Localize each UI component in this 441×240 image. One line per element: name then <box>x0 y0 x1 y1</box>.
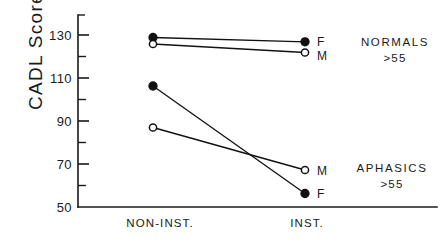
series-line-normals-male <box>153 44 305 53</box>
point-label-normals-female: F <box>317 35 325 49</box>
annotation-aphasics: APHASICS >55 <box>357 162 428 190</box>
annotation-aphasics-line1: APHASICS <box>357 162 428 174</box>
series-line-aphasics-male <box>153 128 305 171</box>
annotation-normals: NORMALS >55 <box>361 36 429 64</box>
y-tick-label-110: 110 <box>50 71 72 86</box>
series-line-normals-female <box>153 38 305 42</box>
annotation-aphasics-line2: >55 <box>380 178 403 190</box>
datapoint-aphasics-female-non-inst <box>149 82 157 90</box>
y-tick-label-130: 130 <box>49 28 72 43</box>
datapoint-aphasics-female-inst <box>301 189 309 197</box>
datapoint-normals-male-non-inst <box>149 40 156 47</box>
point-label-aphasics-female: F <box>317 187 325 201</box>
y-tick-label-70: 70 <box>57 157 72 172</box>
x-tick-label-inst: INST. <box>290 217 324 229</box>
series-normals-male: M <box>149 40 327 63</box>
y-tick-label-50: 50 <box>57 200 72 215</box>
datapoint-aphasics-male-non-inst <box>149 124 156 131</box>
series-aphasics-female: F <box>149 82 325 201</box>
x-tick-label-non-inst: NON-INST. <box>126 217 193 229</box>
annotation-normals-line2: >55 <box>383 52 406 64</box>
datapoint-aphasics-male-inst <box>301 166 308 173</box>
series-line-aphasics-female <box>153 86 305 194</box>
series-normals-female: F <box>149 33 325 49</box>
series-aphasics-male: M <box>149 124 327 178</box>
x-axis-tick-labels: NON-INST. INST. <box>126 217 324 229</box>
y-axis-tick-labels: 130 110 90 70 50 <box>49 28 72 215</box>
chart-figure: CADL Score 130 110 90 70 <box>0 0 441 240</box>
line-chart-plot: 130 110 90 70 50 NON-INST. INST. F M <box>0 0 441 240</box>
datapoint-normals-female-inst <box>301 38 309 46</box>
point-label-normals-male: M <box>317 49 328 63</box>
datapoint-normals-male-inst <box>301 49 308 56</box>
y-tick-label-90: 90 <box>57 114 72 129</box>
point-label-aphasics-male: M <box>317 164 328 178</box>
annotation-normals-line1: NORMALS <box>361 36 429 48</box>
